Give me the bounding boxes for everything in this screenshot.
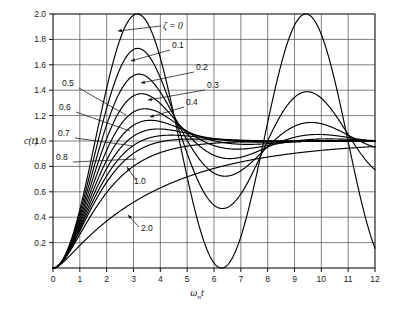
x-axis-title-omega: ω: [190, 287, 197, 298]
curve-label-t0: ζ = 0: [163, 21, 183, 32]
x-tick-label: 7: [238, 274, 243, 284]
step-response-chart: 0.20.40.60.81.01.21.41.61.82.0 012345678…: [0, 0, 393, 315]
x-axis-title-time: t: [201, 287, 204, 298]
x-tick-label: 2: [104, 274, 109, 284]
curve-label-t01: 0.1: [172, 40, 184, 50]
y-tick-label: 0.4: [34, 212, 46, 222]
x-tick-label: 6: [212, 274, 217, 284]
y-tick-label: 0.2: [34, 238, 46, 248]
y-tick-label: 1.8: [34, 34, 46, 44]
x-tick-label: 8: [265, 274, 270, 284]
x-tick-label: 11: [344, 274, 353, 284]
y-tick-label: 1.2: [34, 111, 46, 121]
x-tick-label: 1: [77, 274, 82, 284]
curve-label-t06: 0.6: [59, 102, 71, 112]
y-tick-label: 0.8: [34, 161, 46, 171]
y-tick-label: 0.6: [34, 187, 46, 197]
y-axis-title: c(t): [24, 135, 39, 147]
x-tick-label: 12: [370, 274, 380, 284]
x-tick-label: 5: [185, 274, 190, 284]
figure-container: 0.20.40.60.81.01.21.41.61.82.0 012345678…: [0, 0, 393, 315]
x-tick-label: 10: [317, 274, 327, 284]
y-tick-label: 2.0: [34, 9, 46, 19]
curve-label-t05: 0.5: [62, 78, 74, 88]
curve-label-t10: 1.0: [134, 176, 146, 186]
x-tick-label: 3: [131, 274, 136, 284]
y-tick-label: 1.6: [34, 60, 46, 70]
x-tick-label: 0: [51, 274, 56, 284]
y-tick-label: 1.4: [34, 85, 46, 95]
curve-label-t20: 2.0: [141, 223, 153, 233]
curve-label-t08: 0.8: [56, 152, 68, 162]
curve-label-t04: 0.4: [186, 97, 198, 107]
curve-label-t03: 0.3: [207, 80, 219, 90]
curve-label-t07: 0.7: [58, 128, 70, 138]
x-tick-label: 4: [158, 274, 163, 284]
curve-label-t02: 0.2: [196, 62, 208, 72]
x-tick-label: 9: [292, 274, 297, 284]
